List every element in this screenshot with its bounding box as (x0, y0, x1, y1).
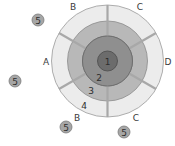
zone-label-1: 1 (105, 57, 111, 67)
zone-label-4: 4 (81, 101, 87, 111)
sector-label-c: C (133, 113, 139, 123)
sector-label-b: B (74, 113, 80, 123)
zone-label-2: 2 (96, 73, 102, 83)
sector-label-d: D (165, 57, 172, 67)
zone-5-label: 5 (121, 128, 127, 138)
zone-5-marker: 5 (118, 126, 130, 138)
zone-5-label: 5 (35, 16, 41, 26)
zone-label-3: 3 (88, 86, 94, 96)
sector-label-b: B (70, 2, 76, 12)
concentric-zone-diagram: BCADBC 1234 5555 (0, 0, 175, 146)
zone-5-marker: 5 (32, 14, 44, 26)
zone-5-label: 5 (12, 77, 18, 87)
zone-5-label: 5 (63, 123, 69, 133)
zone-5-marker: 5 (9, 75, 21, 87)
zone-5-marker: 5 (60, 121, 72, 133)
sector-label-a: A (43, 57, 50, 67)
sector-label-c: C (137, 2, 143, 12)
